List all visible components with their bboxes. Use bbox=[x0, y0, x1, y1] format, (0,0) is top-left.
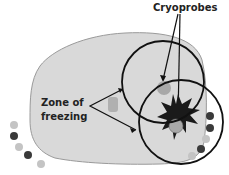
zone-label-line-2: freezing bbox=[41, 110, 87, 124]
zone-marker bbox=[108, 97, 118, 112]
cryoablation-diagram bbox=[0, 0, 229, 175]
zone-label-line-1: Zone of bbox=[41, 96, 87, 110]
cryoprobes-label: Cryoprobes bbox=[153, 2, 218, 13]
zone-of-freezing-label: Zone of freezing bbox=[41, 96, 87, 124]
